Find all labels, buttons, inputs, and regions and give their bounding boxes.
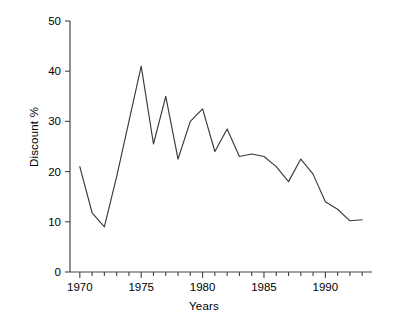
x-tick-group: 19701975198019851990: [67, 272, 362, 293]
x-tick-label: 1985: [251, 281, 277, 293]
x-axis: 19701975198019851990: [67, 272, 372, 293]
x-tick-label: 1975: [128, 281, 154, 293]
x-tick-label: 1980: [190, 281, 216, 293]
y-tick-label: 40: [48, 65, 61, 77]
y-tick-label: 20: [48, 166, 61, 178]
x-axis-title: Years: [0, 300, 408, 312]
y-tick-group: 01020304050: [48, 15, 70, 278]
y-tick-label: 30: [48, 115, 61, 127]
y-axis: 01020304050: [48, 15, 70, 278]
data-series-line: [80, 66, 362, 227]
x-tick-label: 1990: [313, 281, 339, 293]
y-tick-label: 0: [55, 266, 61, 278]
chart-canvas: 01020304050 19701975198019851990: [0, 0, 408, 323]
y-tick-label: 50: [48, 15, 61, 27]
x-tick-label: 1970: [67, 281, 93, 293]
y-tick-label: 10: [48, 216, 61, 228]
discount-line-chart: 01020304050 19701975198019851990 Discoun…: [0, 0, 408, 323]
y-axis-title: Discount %: [28, 57, 40, 217]
